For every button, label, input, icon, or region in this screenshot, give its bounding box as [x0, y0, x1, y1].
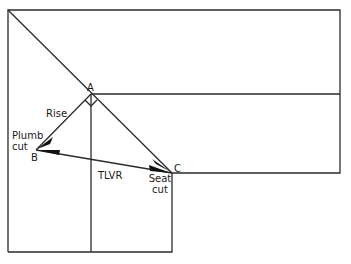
plumb-cut-label-line1: Plumb	[12, 130, 43, 141]
plumb-cut-label: Plumb cut	[12, 130, 43, 152]
seat-cut-label-line2: cut	[148, 184, 172, 195]
rise-line	[36, 94, 91, 150]
rise-label: Rise	[46, 108, 67, 119]
plumb-cut-label-line2: cut	[12, 141, 43, 152]
seat-cut-label-line1: Seat	[148, 173, 172, 184]
point-c-label: C	[174, 163, 181, 174]
point-b-label: B	[31, 152, 38, 163]
seat-cut-label: Seat cut	[148, 173, 172, 195]
rafter-diagram	[0, 0, 351, 264]
outline	[8, 10, 340, 252]
point-a-label: A	[87, 82, 94, 93]
tlvr-label: TLVR	[98, 170, 122, 181]
